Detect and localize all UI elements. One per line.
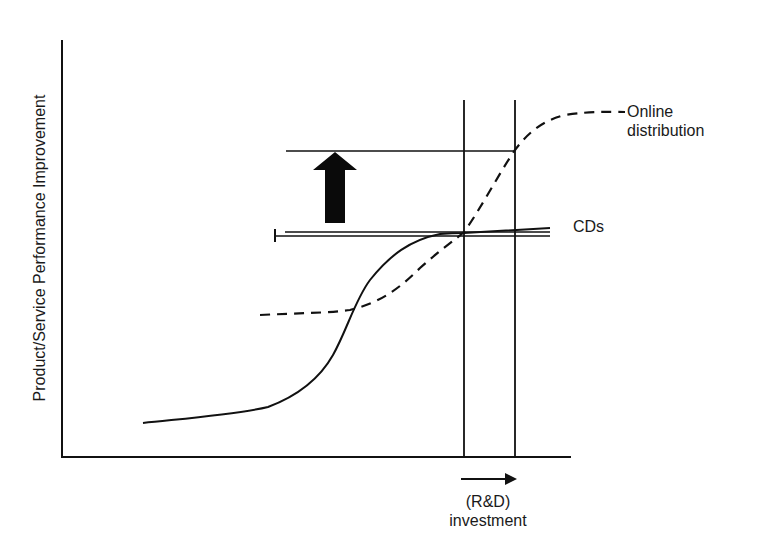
online-distribution-curve bbox=[260, 112, 625, 315]
x-label-line1: (R&D) bbox=[436, 492, 540, 511]
x-label-line2: investment bbox=[436, 511, 540, 530]
online-label-line2: distribution bbox=[627, 121, 704, 140]
online-distribution-label: Online distribution bbox=[627, 102, 704, 140]
cds-curve bbox=[143, 228, 550, 423]
s-curve-diagram bbox=[0, 0, 778, 560]
up-arrow-icon bbox=[313, 152, 357, 223]
cds-label: CDs bbox=[573, 217, 604, 236]
x-axis-label: (R&D) investment bbox=[436, 492, 540, 530]
right-arrow-icon bbox=[505, 473, 517, 485]
online-label-line1: Online bbox=[627, 102, 704, 121]
y-axis-label: Product/Service Performance Improvement bbox=[31, 95, 49, 402]
